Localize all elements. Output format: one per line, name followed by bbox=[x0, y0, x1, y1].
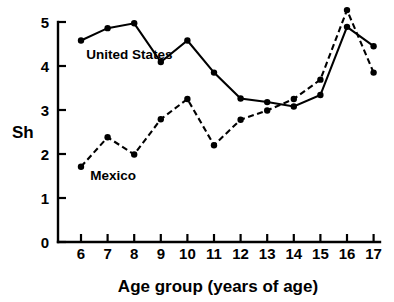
data-point-marker bbox=[104, 134, 110, 140]
x-tick-label: 7 bbox=[103, 245, 111, 262]
y-axis-ticks: 012345 bbox=[41, 14, 66, 251]
data-point-marker bbox=[317, 76, 323, 82]
data-point-marker bbox=[291, 103, 297, 109]
y-axis-title: Sh bbox=[12, 123, 34, 142]
series-layer bbox=[78, 7, 377, 170]
y-tick-label: 4 bbox=[41, 58, 50, 75]
data-point-marker bbox=[211, 69, 217, 75]
x-tick-label: 6 bbox=[77, 245, 85, 262]
x-tick-label: 9 bbox=[157, 245, 165, 262]
data-point-marker bbox=[291, 96, 297, 102]
data-point-marker bbox=[344, 24, 350, 30]
chart-container: 012345 67891011121314151617 United State… bbox=[0, 0, 394, 302]
data-point-marker bbox=[317, 92, 323, 98]
y-tick-label: 1 bbox=[41, 190, 49, 207]
x-tick-label: 8 bbox=[130, 245, 138, 262]
y-tick-label: 0 bbox=[41, 234, 49, 251]
data-point-marker bbox=[237, 116, 243, 122]
data-point-marker bbox=[237, 95, 243, 101]
series-annotation-label: Mexico bbox=[90, 168, 136, 183]
data-point-marker bbox=[78, 164, 84, 170]
x-tick-label: 16 bbox=[339, 245, 356, 262]
data-point-marker bbox=[264, 107, 270, 113]
data-point-marker bbox=[131, 151, 137, 157]
x-tick-label: 13 bbox=[259, 245, 276, 262]
y-tick-label: 5 bbox=[41, 14, 49, 31]
data-point-marker bbox=[370, 43, 376, 49]
data-point-marker bbox=[211, 142, 217, 148]
x-tick-label: 15 bbox=[312, 245, 329, 262]
x-tick-label: 10 bbox=[179, 245, 196, 262]
data-point-marker bbox=[158, 116, 164, 122]
x-tick-label: 14 bbox=[285, 245, 302, 262]
series-line-mexico bbox=[81, 10, 374, 167]
data-point-marker bbox=[131, 20, 137, 26]
data-point-marker bbox=[370, 69, 376, 75]
data-point-marker bbox=[184, 96, 190, 102]
x-axis-ticks: 67891011121314151617 bbox=[77, 234, 382, 262]
x-axis-title: Age group (years of age) bbox=[118, 277, 318, 296]
y-tick-label: 2 bbox=[41, 146, 49, 163]
line-chart: 012345 67891011121314151617 United State… bbox=[0, 0, 394, 302]
data-point-marker bbox=[344, 7, 350, 13]
x-tick-label: 17 bbox=[365, 245, 382, 262]
data-point-marker bbox=[78, 37, 84, 43]
series-line-united-states bbox=[81, 23, 374, 106]
series-annotations: United StatesMexico bbox=[86, 47, 172, 182]
y-tick-label: 3 bbox=[41, 102, 49, 119]
data-point-marker bbox=[264, 99, 270, 105]
x-tick-label: 12 bbox=[232, 245, 249, 262]
data-point-marker bbox=[104, 25, 110, 31]
data-point-marker bbox=[184, 37, 190, 43]
x-tick-label: 11 bbox=[206, 245, 222, 262]
series-annotation-label: United States bbox=[86, 47, 172, 62]
